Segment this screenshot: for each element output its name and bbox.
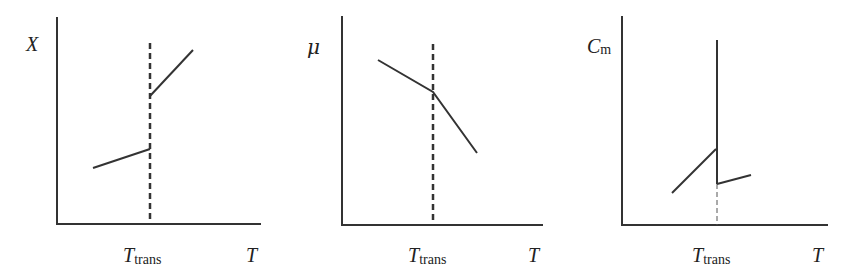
curve-above-transition: [150, 50, 193, 96]
curve-below-transition: [672, 149, 716, 193]
x-axis-label: T: [528, 244, 541, 266]
panel-cm-vs-t: Cm Ttrans T: [587, 16, 828, 267]
transition-label: Ttrans: [408, 244, 446, 267]
x-axis-label: T: [812, 244, 825, 266]
curve-above-transition: [717, 175, 751, 184]
y-axis-label: Cm: [587, 35, 611, 57]
transition-label: Ttrans: [692, 244, 730, 267]
y-axis-label: X: [25, 33, 39, 55]
transition-label: Ttrans: [123, 244, 161, 267]
phase-transition-diagram: X Ttrans T μ Ttrans T Cm Ttrans T: [0, 0, 855, 273]
panel-x-vs-t: X Ttrans T: [25, 17, 261, 267]
y-axis-label: μ: [307, 35, 320, 59]
x-axis-label: T: [246, 244, 259, 266]
chemical-potential-curve: [378, 60, 477, 153]
curve-below-transition: [93, 149, 150, 168]
panel-mu-vs-t: μ Ttrans T: [307, 16, 543, 267]
